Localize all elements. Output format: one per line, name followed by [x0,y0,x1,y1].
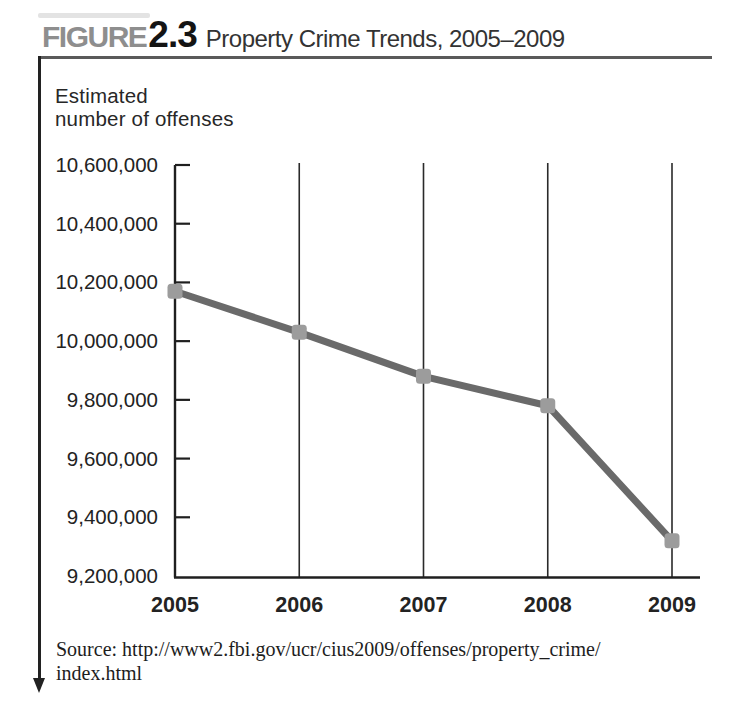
x-tick-label: 2008 [524,593,572,617]
y-tick-label: 10,600,000 [55,153,158,176]
y-axis-labels: 10,600,00010,400,00010,200,00010,000,000… [55,153,158,587]
x-tick-label: 2005 [151,593,199,617]
data-point [168,284,183,299]
line-chart: 10,600,00010,400,00010,200,00010,000,000… [0,0,740,701]
y-tick-label: 9,200,000 [67,564,158,587]
x-tick-label: 2009 [648,593,696,617]
figure-page: FIGURE 2.3 Property Crime Trends, 2005–2… [0,0,740,701]
y-tick-label: 9,600,000 [67,447,158,470]
y-tick-label: 10,200,000 [55,270,158,293]
y-tick-label: 9,800,000 [67,388,158,411]
source-line1: Source: http://www2.fbi.gov/ucr/cius2009… [56,637,601,661]
x-tick-label: 2007 [400,593,448,617]
data-point [540,398,555,413]
data-point [665,533,680,548]
y-tick-label: 10,000,000 [55,329,158,352]
y-tick-label: 9,400,000 [67,505,158,528]
data-point [416,369,431,384]
y-axis-ticks [175,165,190,517]
x-axis-labels: 20052006200720082009 [151,593,696,617]
axes [174,165,700,578]
source-line2: index.html [56,661,601,685]
y-tick-label: 10,400,000 [55,212,158,235]
data-point [292,325,307,340]
year-gridlines [299,163,672,578]
source-citation: Source: http://www2.fbi.gov/ucr/cius2009… [56,637,601,685]
x-tick-label: 2006 [275,593,323,617]
